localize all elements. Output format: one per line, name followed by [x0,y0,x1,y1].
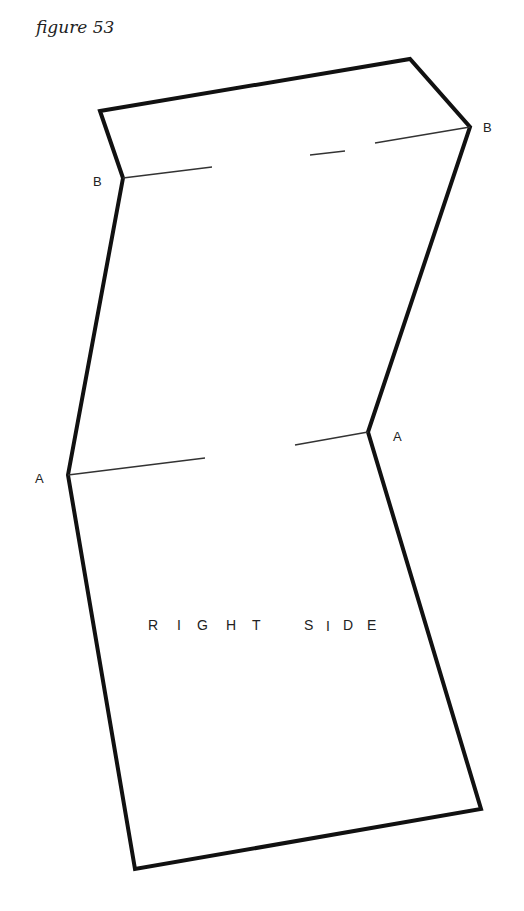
side-letter: D [343,617,353,633]
side-letter: R [148,617,158,633]
fold-label-a-left: A [35,471,44,486]
pattern-outline [68,59,481,869]
side-letter: E [367,617,376,633]
fold-line-b [123,127,470,178]
fold-label-a-right: A [393,429,402,444]
fold-label-b-right: B [483,120,492,135]
fold-line-a [68,432,368,475]
side-letter: H [226,617,236,633]
side-letter: G [197,617,208,633]
side-letter: I [177,617,181,633]
fold-label-b-left: B [93,174,102,189]
right-side-label: R I G H T S I D E [148,617,376,634]
side-letter: I [326,618,330,634]
side-letter: S [304,617,313,633]
side-letter: T [252,617,261,633]
pattern-diagram: B B A A R I G H T S I D E [0,0,524,911]
